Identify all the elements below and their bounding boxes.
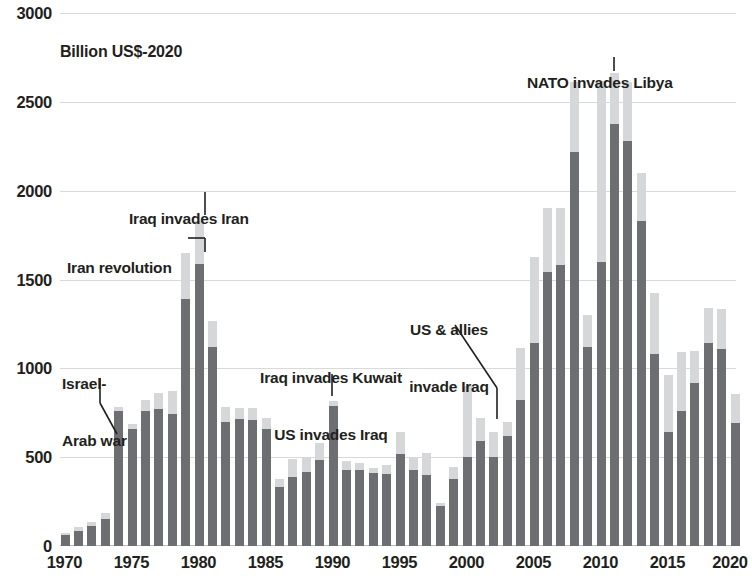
bar-2017-upper-segment [690, 351, 699, 383]
bar-1977-upper-segment [154, 393, 163, 409]
bar-1975-upper-segment [128, 424, 137, 428]
bar-2008-lower-segment [570, 152, 579, 546]
bar-1982-upper-segment [221, 407, 230, 421]
bar-1976-upper-segment [141, 400, 150, 411]
bar-2013-upper-segment [637, 173, 646, 221]
bar-1997-lower-segment [422, 475, 431, 546]
bar-1997 [422, 453, 431, 546]
y-axis-tick-3000: 3000 [0, 4, 52, 23]
bar-1973 [101, 513, 110, 546]
bar-1983 [235, 408, 244, 546]
bar-1998 [436, 503, 445, 546]
bar-2010-lower-segment [597, 262, 606, 546]
bar-1997-upper-segment [422, 453, 431, 475]
bar-2007 [556, 208, 565, 546]
bar-1973-upper-segment [101, 513, 110, 519]
bar-2015-upper-segment [664, 375, 673, 433]
bar-2017-lower-segment [690, 383, 699, 546]
bar-1981-upper-segment [208, 321, 217, 347]
bar-1976 [141, 400, 150, 546]
bar-1971-lower-segment [74, 531, 83, 546]
bar-2014-upper-segment [650, 293, 659, 354]
bar-2014 [650, 293, 659, 546]
chart-container: Billion US$-2020 3000 2500 2000 1500 100… [0, 0, 752, 583]
bar-1994-lower-segment [382, 474, 391, 546]
bar-1972 [87, 522, 96, 546]
bar-1998-lower-segment [436, 506, 445, 546]
bar-1978 [168, 391, 177, 546]
x-axis-tick-2015: 2015 [650, 553, 686, 572]
y-axis-tick-1000: 1000 [0, 359, 52, 378]
annotation-us-allies-invade-iraq-line-1: US & allies [384, 321, 514, 340]
annotation-us-allies-invade-iraq-line-2: invade Iraq [384, 378, 514, 397]
y-axis-tick-0: 0 [0, 537, 52, 556]
bar-2002-lower-segment [489, 457, 498, 546]
bar-2005 [530, 257, 539, 546]
bar-2003 [503, 422, 512, 546]
bar-2013 [637, 173, 646, 546]
bar-1983-lower-segment [235, 419, 244, 546]
bar-2016-upper-segment [677, 352, 686, 411]
bar-2009-upper-segment [583, 315, 592, 347]
bar-1988-lower-segment [302, 472, 311, 546]
annotation-israel-arab-war-line-2: Arab war [62, 432, 127, 451]
bar-1976-lower-segment [141, 411, 150, 546]
bar-2005-lower-segment [530, 343, 539, 546]
bar-2020-lower-segment [731, 423, 740, 546]
bar-1982-lower-segment [221, 422, 230, 546]
bar-1983-upper-segment [235, 408, 244, 419]
bar-2002-upper-segment [489, 432, 498, 457]
bar-2019 [717, 309, 726, 546]
bar-2012-lower-segment [623, 141, 632, 546]
bar-2019-upper-segment [717, 309, 726, 349]
y-axis-tick-2500: 2500 [0, 92, 52, 111]
annotation-us-allies-invade-iraq: US & allies invade Iraq [384, 283, 514, 434]
bar-2004 [516, 348, 525, 546]
x-axis-tick-1995: 1995 [382, 553, 418, 572]
bar-2001 [476, 418, 485, 546]
bar-1971-upper-segment [74, 527, 83, 531]
bar-2020 [731, 394, 740, 546]
y-axis-tick-2000: 2000 [0, 181, 52, 200]
bar-1977-lower-segment [154, 409, 163, 546]
bar-2014-lower-segment [650, 354, 659, 546]
bar-2012 [623, 82, 632, 546]
bar-1982 [221, 407, 230, 546]
x-axis-tick-1975: 1975 [114, 553, 150, 572]
bar-1972-upper-segment [87, 522, 96, 526]
annotation-iraq-invades-iran: Iraq invades Iran [129, 172, 249, 267]
bar-2011 [610, 73, 619, 546]
x-axis-tick-2020: 2020 [712, 553, 748, 572]
bar-1973-lower-segment [101, 519, 110, 546]
bar-2004-upper-segment [516, 348, 525, 400]
bar-1980 [195, 221, 204, 546]
bar-1975 [128, 424, 137, 546]
x-axis-tick-2010: 2010 [583, 553, 619, 572]
bar-2017 [690, 351, 699, 546]
bar-1970-upper-segment [61, 533, 70, 536]
bar-2015 [664, 375, 673, 546]
bar-1986 [275, 479, 284, 547]
bar-2011-lower-segment [610, 124, 619, 546]
bar-1977 [154, 393, 163, 546]
bar-2016 [677, 352, 686, 546]
y-axis-tick-1500: 1500 [0, 270, 52, 289]
bar-1970 [61, 533, 70, 546]
y-axis-tick-500: 500 [0, 448, 52, 467]
bar-2006-upper-segment [543, 208, 552, 272]
bar-1978-lower-segment [168, 414, 177, 546]
bar-2002 [489, 432, 498, 546]
x-axis-tick-1970: 1970 [47, 553, 83, 572]
bar-2005-upper-segment [530, 257, 539, 343]
bar-1993-lower-segment [369, 473, 378, 546]
bar-1979 [181, 253, 190, 546]
bar-2016-lower-segment [677, 411, 686, 546]
bar-1978-upper-segment [168, 391, 177, 414]
annotation-nato-invades-libya: NATO invades Libya [527, 36, 673, 131]
bar-2018-upper-segment [704, 308, 713, 344]
bar-1979-lower-segment [181, 299, 190, 546]
bar-1971 [74, 527, 83, 546]
bar-1987-lower-segment [288, 477, 297, 546]
bar-1986-lower-segment [275, 487, 284, 546]
annotation-nato-invades-libya-line-1: NATO invades Libya [527, 74, 673, 93]
